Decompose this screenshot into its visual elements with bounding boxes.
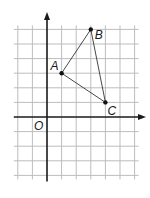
origin-label: O bbox=[34, 119, 43, 133]
coordinate-diagram: ABC O bbox=[0, 0, 150, 198]
x-axis-arrow-icon bbox=[138, 114, 146, 120]
point-b bbox=[89, 27, 93, 31]
point-label-a: A bbox=[50, 59, 59, 73]
y-axis-arrow-icon bbox=[44, 12, 50, 20]
point-a bbox=[59, 71, 63, 75]
grid-lines bbox=[14, 25, 139, 179]
point-label-b: B bbox=[95, 28, 103, 42]
axes bbox=[14, 12, 146, 181]
point-label-c: C bbox=[107, 104, 116, 118]
